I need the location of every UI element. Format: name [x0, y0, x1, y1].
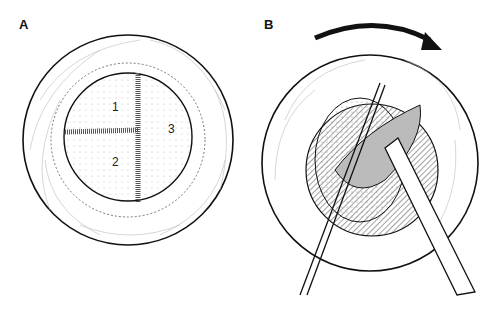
panel-b: B	[245, 0, 490, 309]
graft-circle	[64, 73, 192, 201]
rotation-arrow-icon	[315, 25, 430, 40]
eye-illustration-b	[245, 0, 490, 309]
panel-a: A 1 3 2	[0, 0, 245, 309]
horizontal-suture	[65, 130, 138, 132]
region-2-label: 2	[112, 155, 119, 169]
region-1-label: 1	[112, 100, 119, 114]
eye-illustration-a	[0, 0, 245, 309]
region-3-label: 3	[168, 122, 175, 136]
